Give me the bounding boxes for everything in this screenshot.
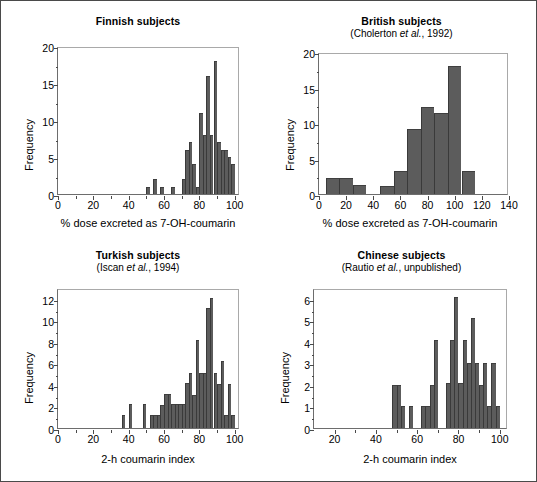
histogram-bars xyxy=(58,48,238,194)
y-tick-label: 2 xyxy=(48,402,58,414)
histogram-bar xyxy=(394,171,408,194)
y-minor-tick-mark xyxy=(312,419,315,420)
x-tick-label: 100 xyxy=(226,433,244,445)
histogram-bar xyxy=(146,187,150,194)
histogram-bar xyxy=(122,415,126,428)
x-tick-label: 20 xyxy=(87,199,99,211)
x-axis-label: % dose excreted as 7-OH-coumarin xyxy=(293,217,527,229)
y-tick-label: 4 xyxy=(304,338,314,350)
y-minor-tick-mark xyxy=(56,355,59,356)
histogram-bar xyxy=(231,415,235,428)
x-tick-label: 20 xyxy=(340,199,352,211)
histogram-bar xyxy=(339,178,353,194)
plot-area-wrapper: 024681012020406080100 Frequency 2-h coum… xyxy=(7,241,269,477)
x-tick-label: 80 xyxy=(194,433,206,445)
x-tick-label: 40 xyxy=(123,199,135,211)
plot-area-wrapper: 05101520020406080100120140 Frequency % d… xyxy=(271,7,532,241)
x-tick-label: 140 xyxy=(500,199,518,211)
x-minor-tick-mark xyxy=(397,430,398,433)
x-axis-label: % dose excreted as 7-OH-coumarin xyxy=(31,217,265,229)
plot-area-wrapper: 012345620406080100 Frequency 2-h coumari… xyxy=(271,241,532,477)
x-tick-label: 60 xyxy=(395,199,407,211)
y-tick-label: 10 xyxy=(42,116,58,128)
histogram-bar xyxy=(153,179,157,194)
x-tick-label: 80 xyxy=(194,199,206,211)
y-minor-tick-mark xyxy=(312,398,315,399)
y-minor-tick-mark xyxy=(56,376,59,377)
histogram-bar xyxy=(496,406,500,428)
x-minor-tick-mark xyxy=(111,196,112,199)
histogram-bar xyxy=(231,164,235,194)
x-tick-label: 100 xyxy=(226,199,244,211)
x-minor-tick-mark xyxy=(146,430,147,433)
x-minor-tick-mark xyxy=(182,196,183,199)
x-tick-label: 80 xyxy=(453,433,465,445)
plot-area-wrapper: 05101520020406080100 Frequency % dose ex… xyxy=(7,7,269,241)
y-tick-label: 1 xyxy=(304,402,314,414)
y-axis-label: Frequency xyxy=(23,119,35,171)
y-minor-tick-mark xyxy=(317,107,320,108)
y-minor-tick-mark xyxy=(56,419,59,420)
histogram-bar xyxy=(448,66,462,194)
x-axis-label: 2-h coumarin index xyxy=(31,453,265,465)
x-minor-tick-mark xyxy=(479,430,480,433)
histogram-bar xyxy=(462,171,476,194)
panel-turkish: Turkish subjects (Iscan et al., 1994) 02… xyxy=(7,241,269,477)
y-tick-label: 6 xyxy=(304,295,314,307)
x-tick-label: 0 xyxy=(55,199,61,211)
y-tick-label: 12 xyxy=(42,295,58,307)
panel-finnish: Finnish subjects 05101520020406080100 Fr… xyxy=(7,7,269,241)
histogram-bar xyxy=(129,404,133,428)
x-minor-tick-mark xyxy=(217,196,218,199)
y-minor-tick-mark xyxy=(317,178,320,179)
histogram-bar xyxy=(326,178,340,194)
histogram-bar xyxy=(353,185,367,194)
y-tick-label: 10 xyxy=(303,119,319,131)
x-tick-label: 80 xyxy=(422,199,434,211)
histogram-bar xyxy=(143,404,147,428)
x-tick-label: 20 xyxy=(87,433,99,445)
histogram-bars xyxy=(58,290,238,428)
x-tick-label: 120 xyxy=(473,199,491,211)
y-tick-label: 2 xyxy=(304,381,314,393)
y-tick-label: 5 xyxy=(48,153,58,165)
histogram-bar xyxy=(421,107,435,194)
x-minor-tick-mark xyxy=(76,430,77,433)
y-minor-tick-mark xyxy=(317,143,320,144)
y-tick-label: 15 xyxy=(303,84,319,96)
y-axis-label: Frequency xyxy=(279,352,291,404)
y-axis-label: Frequency xyxy=(23,352,35,404)
histogram-bar xyxy=(434,340,438,428)
plot-frame-chinese: 012345620406080100 xyxy=(313,289,507,429)
plot-frame-british: 05101520020406080100120140 xyxy=(318,53,508,195)
y-tick-label: 15 xyxy=(42,79,58,91)
histogram-bar xyxy=(409,406,413,428)
x-tick-label: 40 xyxy=(367,199,379,211)
x-tick-label: 0 xyxy=(316,199,322,211)
y-minor-tick-mark xyxy=(312,376,315,377)
x-tick-label: 60 xyxy=(411,433,423,445)
histogram-bar xyxy=(434,113,448,194)
y-minor-tick-mark xyxy=(56,178,59,179)
x-minor-tick-mark xyxy=(76,196,77,199)
x-minor-tick-mark xyxy=(438,430,439,433)
y-minor-tick-mark xyxy=(56,398,59,399)
histogram-bars xyxy=(319,54,507,194)
y-minor-tick-mark xyxy=(312,355,315,356)
plot-frame-turkish: 024681012020406080100 xyxy=(57,289,239,429)
x-minor-tick-mark xyxy=(182,430,183,433)
y-tick-label: 4 xyxy=(48,381,58,393)
x-minor-tick-mark xyxy=(111,430,112,433)
x-minor-tick-mark xyxy=(217,430,218,433)
y-minor-tick-mark xyxy=(317,72,320,73)
histogram-bar xyxy=(380,186,394,194)
y-minor-tick-mark xyxy=(56,104,59,105)
figure-panel-grid: Finnish subjects 05101520020406080100 Fr… xyxy=(0,0,537,482)
panel-british: British subjects (Cholerton et al., 1992… xyxy=(271,7,532,241)
histogram-bar xyxy=(401,406,405,428)
x-tick-label: 40 xyxy=(370,433,382,445)
histogram-bars xyxy=(314,290,506,428)
x-tick-label: 60 xyxy=(158,433,170,445)
y-axis-label: Frequency xyxy=(284,119,296,171)
histogram-bar xyxy=(171,187,175,194)
